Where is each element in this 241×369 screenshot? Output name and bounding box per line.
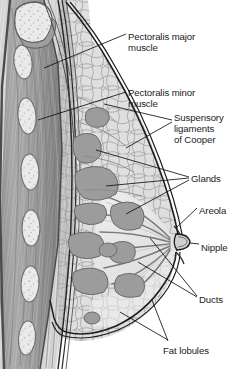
label-glands: Glands — [191, 173, 221, 184]
label-suspensory-ligaments-of-cooper: Suspensory ligaments of Cooper — [174, 112, 224, 146]
label-pectoralis-minor: Pectoralis minor muscle — [128, 87, 195, 109]
label-areola: Areola — [199, 205, 226, 216]
label-ducts: Ducts — [199, 294, 223, 305]
label-nipple: Nipple — [201, 242, 228, 253]
breast-anatomy-figure: Pectoralis major muscle Pectoralis minor… — [0, 0, 241, 369]
label-pectoralis-major: Pectoralis major muscle — [128, 31, 195, 53]
label-fat-lobules: Fat lobules — [163, 345, 209, 356]
anatomy-illustration — [0, 0, 241, 369]
